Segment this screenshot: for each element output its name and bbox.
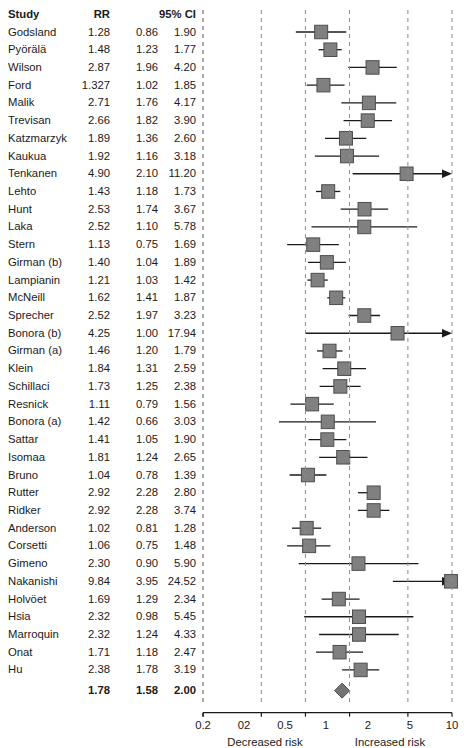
study-ci-upper: 2.47 (158, 644, 196, 661)
study-name: Nakanishi (8, 573, 58, 590)
study-ci-lower: 1.24 (120, 626, 158, 643)
study-ci-upper: 1.85 (158, 77, 196, 94)
study-ci-lower: 0.86 (120, 24, 158, 41)
axis-tick-label: 0.5 (265, 719, 305, 731)
study-rr: 2.52 (72, 218, 110, 235)
study-ci-lower: 1.16 (120, 148, 158, 165)
study-ci-upper: 2.80 (158, 484, 196, 501)
study-rr: 1.46 (72, 342, 110, 359)
study-ci-upper: 1.69 (158, 236, 196, 253)
study-ci-lower: 1.36 (120, 130, 158, 147)
study-name: Ford (8, 77, 31, 94)
study-rr: 1.81 (72, 449, 110, 466)
study-name: Girman (b) (8, 254, 62, 271)
study-ci-lower: 1.10 (120, 218, 158, 235)
study-ci-upper: 1.42 (158, 272, 196, 289)
study-ci-upper: 1.77 (158, 41, 196, 58)
study-ci-upper: 3.03 (158, 413, 196, 430)
study-ci-lower: 1.97 (120, 307, 158, 324)
axis-label-increased: Increased risk (328, 736, 452, 748)
study-ci-lower: 0.98 (120, 608, 158, 625)
study-ci-lower: 1.04 (120, 254, 158, 271)
study-rr: 1.92 (72, 148, 110, 165)
study-name: Onat (8, 644, 33, 661)
axis-tick-label: 1 (306, 719, 346, 731)
study-ci-upper: 4.20 (158, 59, 196, 76)
study-rr: 1.73 (72, 378, 110, 395)
study-name: Hu (8, 661, 22, 678)
study-name: Girman (a) (8, 342, 62, 359)
study-name: Bonora (b) (8, 325, 61, 342)
forest-row-marker (358, 486, 380, 500)
forest-row-marker (307, 78, 345, 92)
study-rr: 2.32 (72, 608, 110, 625)
study-rr: 1.02 (72, 520, 110, 537)
study-ci-upper: 3.23 (158, 307, 196, 324)
study-name: Stern (8, 236, 35, 253)
study-name: Sprecher (8, 307, 54, 324)
study-name: Pyörälä (8, 41, 46, 58)
study-name: Lehto (8, 183, 36, 200)
study-rr: 1.84 (72, 360, 110, 377)
study-rr: 9.84 (72, 573, 110, 590)
forest-row-marker (290, 468, 327, 482)
forest-row-marker (312, 220, 418, 234)
study-ci-lower: 1.41 (120, 289, 158, 306)
forest-row-marker (304, 610, 413, 624)
forest-row-marker (319, 43, 342, 57)
axis-tick-label: 10 (432, 719, 464, 731)
forest-row-marker (309, 433, 347, 447)
study-name: Hsia (8, 608, 31, 625)
study-rr: 4.25 (72, 325, 110, 342)
study-ci-lower: 0.75 (120, 537, 158, 554)
study-name: Rutter (8, 484, 39, 501)
study-name: Ridker (8, 502, 41, 519)
forest-row-marker (292, 521, 321, 535)
study-rr: 1.71 (72, 644, 110, 661)
study-ci-lower: 1.76 (120, 94, 158, 111)
forest-row-marker (279, 415, 376, 429)
study-rr: 2.30 (72, 555, 110, 572)
study-ci-lower: 2.28 (120, 502, 158, 519)
study-ci-lower: 1.25 (120, 378, 158, 395)
forest-row-marker (322, 592, 360, 606)
study-name: Corsetti (8, 537, 47, 554)
study-name: Tenkanen (8, 165, 57, 182)
axis-tick-label: 0.2 (183, 719, 223, 731)
study-ci-lower: 1.96 (120, 59, 158, 76)
forest-row-marker (290, 397, 333, 411)
study-ci-upper: 1.28 (158, 520, 196, 537)
forest-row-marker (299, 557, 419, 571)
study-rr: 2.32 (72, 626, 110, 643)
forest-row-marker (305, 326, 452, 340)
study-name: Anderson (8, 520, 56, 537)
study-rr: 2.87 (72, 59, 110, 76)
study-rr: 1.43 (72, 183, 110, 200)
forest-row-marker (344, 114, 393, 128)
study-ci-upper: 2.60 (158, 130, 196, 147)
study-ci-upper: 4.17 (158, 94, 196, 111)
study-ci-upper: 3.19 (158, 661, 196, 678)
study-ci-lower: 1.74 (120, 201, 158, 218)
axis-tick-label: 5 (390, 719, 430, 731)
study-ci-lower: 0.75 (120, 236, 158, 253)
study-rr: 2.52 (72, 307, 110, 324)
study-ci-upper: 2.65 (158, 449, 196, 466)
study-name: Kaukua (8, 148, 46, 165)
study-name: Wilson (8, 59, 42, 76)
forest-row-marker (358, 504, 390, 518)
forest-row-marker (296, 25, 346, 39)
forest-row-marker (327, 291, 345, 305)
study-name: Bonora (a) (8, 413, 61, 430)
study-ci-upper: 24.52 (158, 573, 196, 590)
axis-tick-label: 2 (348, 719, 388, 731)
study-name: Isomaa (8, 449, 45, 466)
forest-row-marker (319, 628, 399, 642)
study-ci-upper: 3.90 (158, 112, 196, 129)
study-rr: 1.11 (72, 396, 110, 413)
study-name: Gimeno (8, 555, 48, 572)
study-name: Marroquin (8, 626, 59, 643)
study-ci-lower: 0.66 (120, 413, 158, 430)
study-ci-upper: 2.34 (158, 591, 196, 608)
